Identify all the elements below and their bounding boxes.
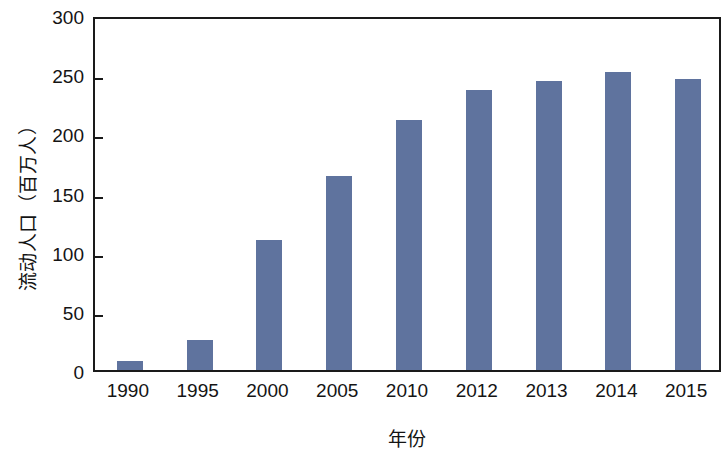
y-tick-label: 50 xyxy=(20,303,84,322)
y-tick-mark xyxy=(95,315,103,317)
plot-area xyxy=(93,17,721,372)
bar xyxy=(675,79,701,370)
y-tick-mark xyxy=(95,78,103,80)
y-tick-label: 100 xyxy=(20,244,84,263)
x-tick-label: 1995 xyxy=(158,380,238,403)
x-tick-label: 2012 xyxy=(437,380,517,403)
x-tick-label: 2000 xyxy=(227,380,307,403)
y-tick-label: 0 xyxy=(20,363,84,382)
y-tick-label: 300 xyxy=(20,8,84,27)
x-tick-label: 2013 xyxy=(507,380,587,403)
y-tick-label: 150 xyxy=(20,185,84,204)
y-tick-mark xyxy=(95,256,103,258)
bar xyxy=(536,81,562,370)
y-tick-label: 200 xyxy=(20,126,84,145)
y-tick-mark xyxy=(95,197,103,199)
bar xyxy=(326,176,352,370)
x-tick-label: 2010 xyxy=(367,380,447,403)
bar xyxy=(117,361,143,370)
plot-inner xyxy=(95,19,719,370)
x-axis-tick-labels: 1990 1995 2000 2005 2010 2012 2013 2014 … xyxy=(93,380,721,408)
bar xyxy=(396,120,422,370)
bar-chart-figure: 流动人口（百万人） 0 50 100 150 200 250 300 xyxy=(0,0,728,453)
x-tick-label: 2014 xyxy=(576,380,656,403)
x-tick-label: 1990 xyxy=(88,380,168,403)
bar xyxy=(605,72,631,370)
x-axis-title: 年份 xyxy=(93,424,721,451)
bar xyxy=(187,340,213,370)
y-tick-mark xyxy=(95,137,103,139)
y-tick-label: 250 xyxy=(20,67,84,86)
y-axis-tick-labels: 0 50 100 150 200 250 300 xyxy=(20,0,84,453)
bar xyxy=(466,90,492,370)
bar xyxy=(256,240,282,370)
x-tick-label: 2015 xyxy=(646,380,726,403)
x-tick-label: 2005 xyxy=(297,380,377,403)
